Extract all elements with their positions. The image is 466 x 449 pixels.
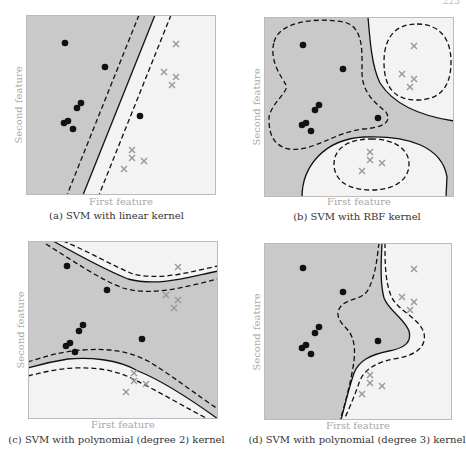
plot-a [26,15,216,195]
data-point-dot [375,115,382,122]
data-point-dot [67,340,74,347]
ylabel-b: Second feature [251,66,262,146]
data-point-dot [308,128,315,135]
ylabel-c: Second feature [15,289,26,369]
caption-d: (d) SVM with polynomial (degree 3) kerne… [248,434,466,445]
data-point-dot [70,126,77,133]
panel-d [264,243,452,420]
xlabel-a: First feature [26,196,216,207]
plot-c [28,241,218,419]
data-point-dot [104,287,111,294]
data-point-dot [102,64,109,71]
ylabel-d: Second feature [251,291,262,371]
data-point-dot [300,265,307,272]
xlabel-c: First feature [28,419,218,430]
data-point-dot [76,328,83,335]
panel-b [264,17,454,197]
data-point-dot [308,351,315,358]
data-point-dot [65,118,72,125]
data-point-dot [340,289,347,296]
panel-c [28,241,218,419]
page-number: 225 [443,0,460,6]
data-point-dot [80,322,87,329]
data-point-dot [312,107,319,114]
data-point-dot [139,336,146,343]
data-point-dot [303,120,310,127]
caption-c: (c) SVM with polynomial (degree 2) kerne… [0,434,233,445]
data-point-dot [64,263,71,270]
xlabel-b: First feature [264,196,454,207]
caption-a: (a) SVM with linear kernel [0,210,233,221]
data-point-dot [316,324,323,331]
data-point-dot [300,42,307,49]
panel-a [26,15,216,195]
data-point-dot [62,40,69,47]
data-point-dot [137,113,144,120]
ylabel-a: Second feature [13,64,24,144]
data-point-dot [312,330,319,337]
data-point-dot [303,342,310,349]
plot-d [264,243,452,420]
data-point-dot [74,105,81,112]
plot-b [264,17,454,197]
data-point-dot [375,338,382,345]
caption-b: (b) SVM with RBF kernel [248,211,466,222]
data-point-dot [340,66,347,73]
xlabel-d: First feature [264,420,452,431]
data-point-dot [72,349,79,356]
